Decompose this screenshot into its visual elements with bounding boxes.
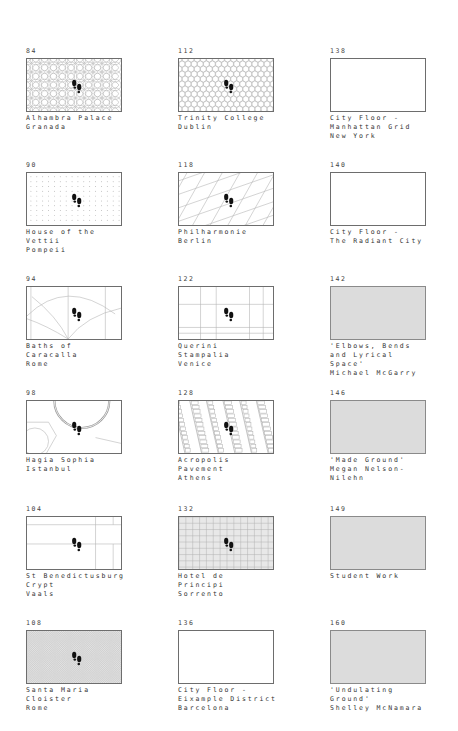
page-number: 104 <box>26 505 146 514</box>
caption-line: Shelley McNamara <box>330 704 450 713</box>
caption-line: Philharmonie <box>178 228 298 237</box>
page-number: 132 <box>178 505 298 514</box>
caption-line: Caracalla <box>26 351 146 360</box>
caption-line: 'Made Ground' <box>330 456 450 465</box>
page-number: 94 <box>26 275 146 284</box>
floor-thumbnail <box>26 286 122 340</box>
floor-tile: 104St BenedictusburgCryptVaals <box>26 505 146 599</box>
caption-line: 'Undulating <box>330 686 450 695</box>
floor-tile: 90House of theVettiiPompeii <box>26 161 146 255</box>
caption-line: Rome <box>26 360 146 369</box>
caption: AcropolisPavementAthens <box>178 456 298 483</box>
caption-line: Hagia Sophia <box>26 456 146 465</box>
caption-line: Rome <box>26 704 146 713</box>
floor-tile: 160'UndulatingGround'Shelley McNamara <box>330 619 450 713</box>
caption-line: New York <box>330 132 450 141</box>
floor-thumbnail <box>330 58 426 112</box>
floor-thumbnail <box>178 172 274 226</box>
floor-thumbnail <box>178 516 274 570</box>
page-number: 128 <box>178 389 298 398</box>
caption-line: Student Work <box>330 572 450 581</box>
caption-line: Venice <box>178 360 298 369</box>
caption-line: City Floor - <box>178 686 298 695</box>
page-number: 160 <box>330 619 450 628</box>
caption-line: Vettii <box>26 237 146 246</box>
footprints-icon <box>71 193 83 209</box>
floor-thumbnail <box>178 58 274 112</box>
caption-line: Granada <box>26 123 146 132</box>
floor-thumbnail <box>330 516 426 570</box>
footprints-icon <box>71 79 83 95</box>
floor-thumbnail <box>26 630 122 684</box>
page-number: 90 <box>26 161 146 170</box>
floor-tile: 122QueriniStampaliaVenice <box>178 275 298 369</box>
caption: Student Work <box>330 572 450 581</box>
page-number: 140 <box>330 161 450 170</box>
floor-thumbnail <box>178 400 274 454</box>
caption: Baths ofCaracallaRome <box>26 342 146 369</box>
floor-tile: 146'Made Ground'Megan Nelson-Nilehn <box>330 389 450 483</box>
floor-tile: 136City Floor -Eixample DistrictBarcelon… <box>178 619 298 713</box>
floor-thumbnail <box>26 400 122 454</box>
caption-line: Berlin <box>178 237 298 246</box>
caption-line: and Lyrical <box>330 351 450 360</box>
page-number: 138 <box>330 47 450 56</box>
caption-line: Ground' <box>330 695 450 704</box>
footprints-icon <box>223 193 235 209</box>
page-number: 136 <box>178 619 298 628</box>
caption-line: Acropolis <box>178 456 298 465</box>
caption-line: The Radiant City <box>330 237 450 246</box>
caption: PhilharmonieBerlin <box>178 228 298 246</box>
caption: Hagia SophiaIstanbul <box>26 456 146 474</box>
floor-tile: 128AcropolisPavementAthens <box>178 389 298 483</box>
caption-line: Barcelona <box>178 704 298 713</box>
floor-tile: 84Alhambra PalaceGranada <box>26 47 146 132</box>
floor-tile: 98Hagia SophiaIstanbul <box>26 389 146 474</box>
caption: City Floor -Eixample DistrictBarcelona <box>178 686 298 713</box>
caption-line: Nilehn <box>330 474 450 483</box>
floor-tile: 149Student Work <box>330 505 450 581</box>
caption: 'UndulatingGround'Shelley McNamara <box>330 686 450 713</box>
floor-thumbnail <box>330 400 426 454</box>
caption-line: Sorrento <box>178 590 298 599</box>
caption-line: Trinity College <box>178 114 298 123</box>
footprints-icon <box>223 79 235 95</box>
footprints-icon <box>223 537 235 553</box>
caption-line: Querini <box>178 342 298 351</box>
caption-line: Crypt <box>26 581 146 590</box>
caption: 'Elbows, Bendsand LyricalSpace'Michael M… <box>330 342 450 378</box>
caption-line: 'Elbows, Bends <box>330 342 450 351</box>
caption-line: City Floor - <box>330 228 450 237</box>
caption: City Floor -The Radiant City <box>330 228 450 246</box>
page-number: 122 <box>178 275 298 284</box>
floor-tile: 112Trinity CollegeDublin <box>178 47 298 132</box>
caption-line: Eixample District <box>178 695 298 704</box>
footprints-icon <box>71 537 83 553</box>
caption: St BenedictusburgCryptVaals <box>26 572 146 599</box>
caption-line: Santa Maria <box>26 686 146 695</box>
caption-line: Pavement <box>178 465 298 474</box>
floor-tile: 142'Elbows, Bendsand LyricalSpace'Michae… <box>330 275 450 378</box>
caption-line: Pompeii <box>26 246 146 255</box>
page-number: 98 <box>26 389 146 398</box>
caption-line: Istanbul <box>26 465 146 474</box>
caption: Alhambra PalaceGranada <box>26 114 146 132</box>
caption-line: Hotel de <box>178 572 298 581</box>
caption: Santa MariaCloisterRome <box>26 686 146 713</box>
caption-line: Athens <box>178 474 298 483</box>
page-number: 108 <box>26 619 146 628</box>
caption: QueriniStampaliaVenice <box>178 342 298 369</box>
caption-line: Stampalia <box>178 351 298 360</box>
caption: City Floor -Manhattan GridNew York <box>330 114 450 141</box>
floor-thumbnail <box>26 58 122 112</box>
floor-thumbnail <box>330 172 426 226</box>
caption-line: Baths of <box>26 342 146 351</box>
page-number: 84 <box>26 47 146 56</box>
caption-line: Dublin <box>178 123 298 132</box>
footprints-icon <box>71 421 83 437</box>
footprints-icon <box>71 651 83 667</box>
caption-line: Cloister <box>26 695 146 704</box>
caption-line: Alhambra Palace <box>26 114 146 123</box>
floor-tile: 138City Floor -Manhattan GridNew York <box>330 47 450 141</box>
caption: 'Made Ground'Megan Nelson-Nilehn <box>330 456 450 483</box>
